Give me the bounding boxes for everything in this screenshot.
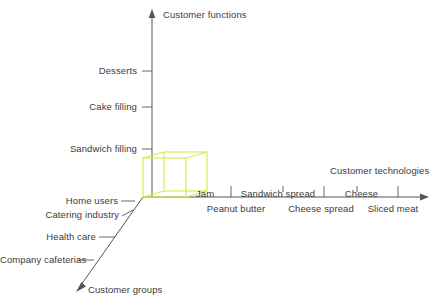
customer-functions-axis-title: Customer functions bbox=[163, 9, 247, 20]
tick-label-peanut-butter: Peanut butter bbox=[190, 203, 282, 214]
tick-label-cake-filling: Cake filling bbox=[0, 101, 137, 112]
tick-label-home-users: Home users bbox=[0, 195, 118, 206]
tick-label-catering-industry: Catering industry bbox=[0, 209, 119, 220]
customer-functions-tick-marks bbox=[142, 71, 152, 149]
tick-label-sandwich-spread: Sandwich spread bbox=[233, 188, 323, 199]
tick-label-health-care: Health care bbox=[0, 231, 96, 242]
tick-label-cheese: Cheese bbox=[326, 188, 397, 199]
tick-label-company-cafeterias: Company cafeterias bbox=[0, 254, 75, 265]
tick-label-cheese-spread: Cheese spread bbox=[285, 203, 357, 214]
diagram-canvas: Customer functions Desserts Cake filling… bbox=[0, 0, 436, 306]
tick-label-jam: Jam bbox=[196, 188, 214, 199]
tick-label-sliced-meat: Sliced meat bbox=[360, 203, 426, 214]
customer-groups-axis-title: Customer groups bbox=[88, 284, 162, 295]
customer-functions-axis-line bbox=[149, 9, 156, 197]
tick-label-desserts: Desserts bbox=[0, 65, 137, 76]
tick-label-sandwich-filling: Sandwich filling bbox=[0, 143, 137, 154]
customer-technologies-axis-title: Customer technologies bbox=[330, 165, 429, 176]
